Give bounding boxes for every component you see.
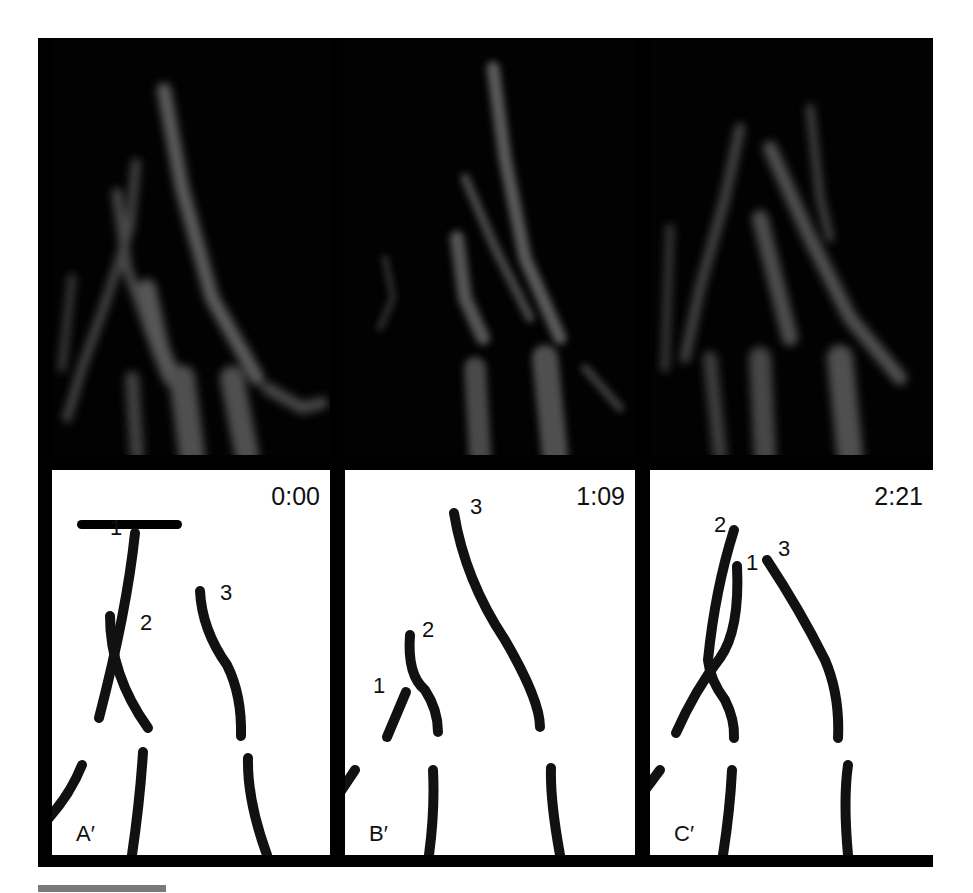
- tracing-panel-b: 1:09 3 2 1 B′: [345, 470, 635, 855]
- tracing-panel-a: 0:00 1 2 3 A′: [52, 470, 330, 855]
- svg-text:1: 1: [373, 673, 385, 698]
- panel-label: B′: [369, 821, 388, 847]
- tracing-panel-c: 2:21 2 1 3 C′: [650, 470, 933, 855]
- svg-text:2: 2: [422, 617, 434, 642]
- tracing-a: 1 2 3: [52, 470, 330, 855]
- micrograph-b: [345, 38, 635, 455]
- panel-label: C′: [674, 821, 694, 847]
- footer-rule: [38, 885, 166, 892]
- svg-text:1: 1: [110, 515, 122, 540]
- tracing-c: 2 1 3: [650, 470, 933, 855]
- svg-text:1: 1: [746, 550, 758, 575]
- svg-text:3: 3: [470, 494, 482, 519]
- micrograph-c: [650, 38, 930, 455]
- panel-label: A′: [76, 821, 95, 847]
- micrograph-a: [52, 38, 330, 455]
- figure-frame: 0:00 1 2 3 A′ 1:09: [38, 38, 933, 867]
- svg-text:2: 2: [140, 610, 152, 635]
- svg-text:3: 3: [778, 536, 790, 561]
- svg-text:3: 3: [220, 580, 232, 605]
- tracing-b: 3 2 1: [345, 470, 635, 855]
- svg-text:2: 2: [714, 512, 726, 537]
